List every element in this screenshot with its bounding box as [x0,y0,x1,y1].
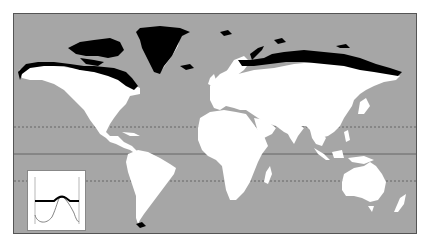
land-new-zealand [394,194,406,212]
land-australia [342,162,386,202]
inset-thick-band [35,197,79,201]
dist-arctic-archipelago [68,38,124,66]
latitude-profile-inset [27,170,86,231]
world-map [13,13,417,234]
inset-chart [28,171,85,230]
land-japan [358,98,370,114]
land-philippines [344,130,350,142]
land-tasmania [368,206,374,212]
land-indonesia [314,148,374,164]
dist-novaya-zemlya [250,46,264,60]
dist-iceland [180,64,194,70]
dist-svalbard [220,30,232,36]
land-caribbean [122,132,140,136]
land-india [284,124,304,144]
dist-siberian-islands [274,38,350,48]
dist-tierra-del-fuego [136,222,146,228]
land-south-america [126,150,176,224]
